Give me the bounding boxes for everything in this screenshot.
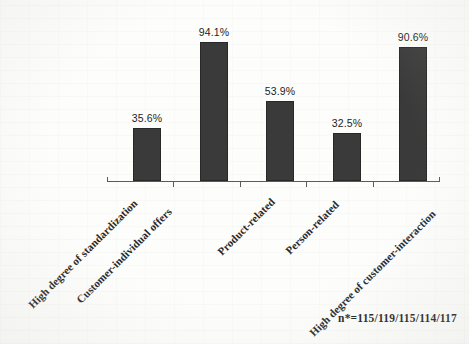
- bar-customer-individual-offers: [200, 42, 228, 181]
- bar-value-label-1: 35.6%: [117, 112, 177, 124]
- x-axis-category-label-3: Product-related: [215, 196, 277, 258]
- x-axis-left-cap: [107, 177, 108, 182]
- bar-product-related: [266, 101, 294, 181]
- x-axis-tick-1: [173, 182, 174, 187]
- x-axis-tick-3: [306, 182, 307, 187]
- sample-size-footnote: n*=115/119/115/114/117: [338, 312, 457, 324]
- bar-value-label-5: 90.6%: [383, 31, 443, 43]
- bar-person-related: [333, 133, 361, 181]
- bar-value-label-3: 53.9%: [250, 85, 310, 97]
- bar-value-label-4: 32.5%: [317, 117, 377, 129]
- bar-chart-plot-area: 35.6% 94.1% 53.9% 32.5% 90.6% High degre…: [0, 0, 469, 344]
- bar-value-label-2: 94.1%: [184, 26, 244, 38]
- x-axis-tick-4: [373, 182, 374, 187]
- x-axis-tick-2: [240, 182, 241, 187]
- bar-high-degree-of-standardization: [133, 128, 161, 181]
- bar-high-degree-of-customer-interaction: [399, 47, 427, 181]
- x-axis-category-label-4: Person-related: [283, 198, 341, 256]
- x-axis-right-cap: [439, 177, 440, 182]
- chart-page: 35.6% 94.1% 53.9% 32.5% 90.6% High degre…: [0, 0, 469, 344]
- x-axis-line: [107, 181, 440, 182]
